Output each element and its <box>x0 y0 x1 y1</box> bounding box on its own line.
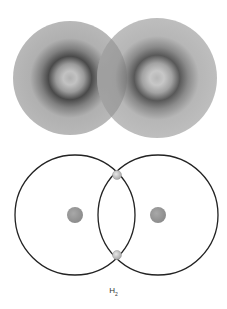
electron-cloud-panel <box>13 18 217 138</box>
h2-diagram <box>0 0 227 309</box>
shared-electron-bottom <box>113 251 122 260</box>
shell-model-panel <box>15 155 218 275</box>
shared-electron-top <box>113 171 122 180</box>
nucleus-left <box>67 207 83 223</box>
nucleus-right <box>150 207 166 223</box>
molecule-label: H2 <box>0 286 227 297</box>
molecule-label-subscript: 2 <box>115 291 118 297</box>
